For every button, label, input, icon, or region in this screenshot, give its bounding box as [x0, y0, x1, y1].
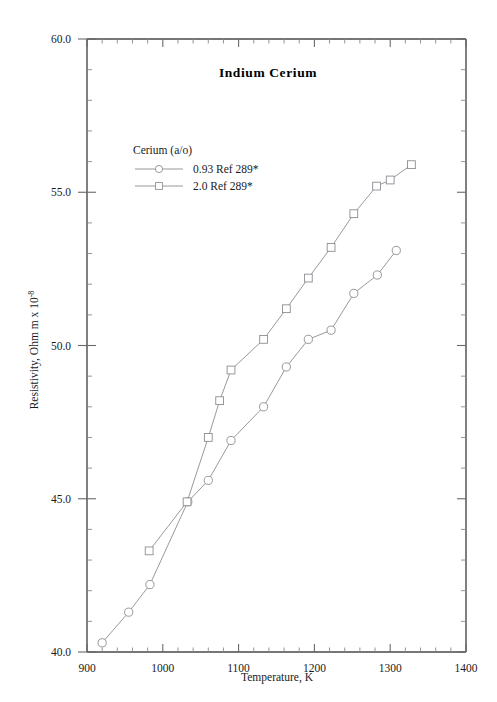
- data-point-marker-square: [304, 274, 312, 282]
- y-axis-title: Resistivity, Ohm m x 10-8: [27, 291, 41, 410]
- legend-marker-square: [156, 183, 163, 190]
- plot-frame: [87, 39, 466, 652]
- y-tick-label: 45.0: [51, 493, 71, 505]
- data-point-marker-square: [386, 176, 394, 184]
- y-axis-tick-labels: 40.045.050.055.060.0: [51, 33, 71, 658]
- data-point-marker-square: [282, 305, 290, 313]
- data-point-marker-circle: [125, 608, 133, 616]
- series-polyline: [149, 165, 411, 551]
- y-axis-ticks: [78, 39, 466, 652]
- chart-canvas: 90010001100120013001400 40.045.050.055.0…: [0, 0, 497, 702]
- series-2: [145, 161, 415, 555]
- x-tick-label: 1000: [151, 662, 174, 674]
- data-point-marker-square: [145, 547, 153, 555]
- data-point-marker-square: [408, 161, 416, 169]
- x-tick-label: 900: [78, 662, 96, 674]
- legend-label: 0.93 Ref 289*: [193, 163, 259, 175]
- data-point-marker-circle: [204, 476, 212, 484]
- data-point-marker-circle: [373, 271, 381, 279]
- chart-title: Indium Cerium: [219, 65, 317, 80]
- data-point-marker-square: [327, 244, 335, 252]
- data-point-marker-circle: [304, 335, 312, 343]
- data-point-marker-circle: [282, 363, 290, 371]
- data-point-marker-circle: [327, 326, 335, 334]
- x-tick-label: 1300: [379, 662, 402, 674]
- data-point-marker-circle: [146, 580, 154, 588]
- y-tick-label: 55.0: [51, 186, 71, 198]
- y-tick-label: 60.0: [51, 33, 71, 45]
- x-tick-label: 1400: [455, 662, 478, 674]
- y-axis-title-text: Resistivity, Ohm m x 10: [28, 297, 41, 409]
- data-point-marker-square: [373, 182, 381, 190]
- x-axis-ticks: [87, 39, 466, 652]
- data-point-marker-square: [227, 366, 235, 374]
- resistivity-chart-figure: 90010001100120013001400 40.045.050.055.0…: [0, 0, 497, 702]
- y-tick-label: 50.0: [51, 340, 71, 352]
- y-axis-title-exponent: -8: [27, 291, 36, 298]
- legend-label: 2.0 Ref 289*: [193, 180, 253, 192]
- x-axis-title: Temperature, K: [241, 671, 314, 684]
- data-point-marker-square: [216, 397, 224, 405]
- data-series-group: [98, 161, 415, 647]
- legend-marker-circle: [155, 165, 162, 172]
- data-point-marker-circle: [260, 403, 268, 411]
- data-point-marker-square: [183, 498, 191, 506]
- chart-legend: Cerium (a/o)0.93 Ref 289*2.0 Ref 289*: [133, 144, 259, 192]
- data-point-marker-circle: [392, 246, 400, 254]
- data-point-marker-circle: [227, 436, 235, 444]
- series-1: [98, 246, 400, 647]
- data-point-marker-square: [350, 210, 358, 218]
- data-point-marker-square: [204, 434, 212, 442]
- legend-title: Cerium (a/o): [133, 144, 192, 157]
- data-point-marker-circle: [350, 289, 358, 297]
- data-point-marker-square: [260, 335, 268, 343]
- data-point-marker-circle: [98, 639, 106, 647]
- y-tick-label: 40.0: [51, 646, 71, 658]
